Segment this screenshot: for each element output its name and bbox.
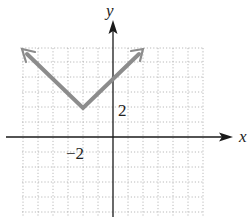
y-axis-label: y [104, 1, 114, 20]
y-tick-label: 2 [118, 101, 127, 120]
x-tick-label: −2 [66, 144, 84, 163]
x-axis-label: x [238, 127, 247, 146]
graph: y x 2 −2 [0, 0, 248, 217]
curve-arrowheads [22, 49, 143, 62]
